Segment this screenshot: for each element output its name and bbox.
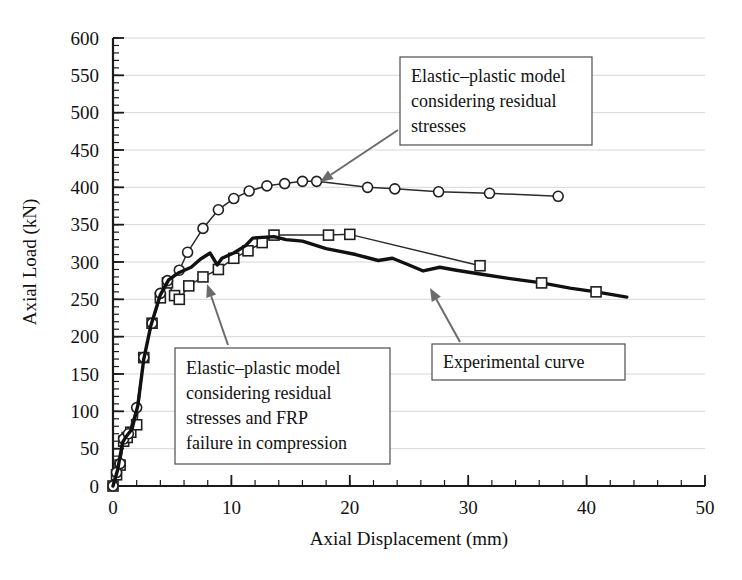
data-point-circle-marker [280, 179, 290, 189]
data-point-square-marker [591, 287, 601, 297]
data-point-square-marker [184, 281, 194, 291]
x-axis-title: Axial Displacement (mm) [310, 528, 508, 550]
y-tick-label: 150 [71, 364, 100, 385]
data-point-circle-marker [434, 187, 444, 197]
annotation-line: Elastic–plastic model [186, 358, 340, 378]
y-tick-label: 250 [71, 289, 100, 310]
axial-load-displacement-chart: 050100150200250300350400450500550600 010… [0, 0, 742, 580]
data-point-square-marker [475, 261, 485, 271]
data-point-circle-marker [485, 188, 495, 198]
y-tick-label: 500 [71, 102, 100, 123]
annotation-line: considering residual [186, 383, 331, 403]
y-tick-label: 550 [71, 65, 100, 86]
data-point-circle-marker [229, 194, 239, 204]
data-point-square-marker [323, 230, 333, 240]
x-tick-label: 0 [108, 497, 118, 518]
annotation-line: failure in compression [186, 433, 347, 453]
y-tick-label: 200 [71, 326, 100, 347]
data-point-circle-marker [390, 184, 400, 194]
x-tick-label: 50 [696, 497, 715, 518]
annotation-line: Elastic–plastic model [411, 66, 565, 86]
y-tick-label: 350 [71, 214, 100, 235]
annotation-line: stresses [411, 116, 466, 136]
data-point-square-marker [345, 229, 355, 239]
data-point-circle-marker [244, 186, 254, 196]
y-tick-label: 100 [71, 401, 100, 422]
y-axis-title: Axial Load (kN) [19, 199, 41, 326]
annotation-line: stresses and FRP [186, 408, 308, 428]
x-tick-label: 10 [222, 497, 241, 518]
y-tick-label: 600 [71, 28, 100, 49]
y-tick-label: 50 [80, 438, 99, 459]
data-point-circle-marker [213, 205, 223, 215]
x-tick-label: 40 [577, 497, 596, 518]
y-tick-label: 450 [71, 140, 100, 161]
data-point-circle-marker [553, 191, 563, 201]
annotation-line: considering residual [411, 91, 556, 111]
y-tick-label: 400 [71, 177, 100, 198]
y-tick-label: 300 [71, 252, 100, 273]
chart-background [0, 0, 742, 580]
data-point-square-marker [537, 278, 547, 288]
annotation-line: Experimental curve [443, 352, 584, 372]
chart-canvas: 050100150200250300350400450500550600 010… [0, 0, 742, 580]
data-point-square-marker [198, 272, 208, 282]
data-point-circle-marker [198, 223, 208, 233]
data-point-circle-marker [297, 176, 307, 186]
x-tick-label: 30 [459, 497, 478, 518]
x-tick-label: 20 [340, 497, 359, 518]
data-point-circle-marker [312, 176, 322, 186]
data-point-circle-marker [363, 182, 373, 192]
y-tick-label: 0 [90, 476, 100, 497]
data-point-circle-marker [262, 181, 272, 191]
data-point-circle-marker [183, 247, 193, 257]
data-point-square-marker [174, 294, 184, 304]
